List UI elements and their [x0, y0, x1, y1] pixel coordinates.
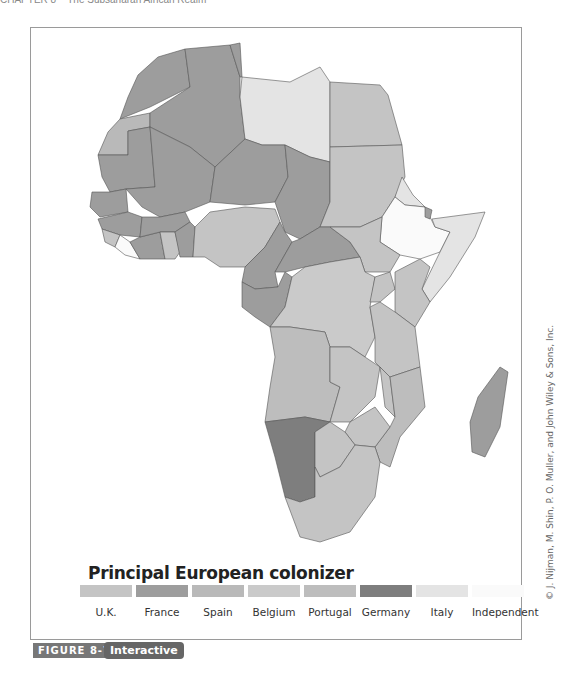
legend-swatch	[136, 585, 188, 597]
legend-label: Portugal	[304, 606, 356, 618]
legend: U.K. France Spain Belgium Portugal Germa…	[80, 585, 516, 615]
running-header: CHAPTER 8 The Subsaharan African Realm	[0, 0, 206, 5]
legend-swatch	[80, 585, 132, 597]
country-senegal	[90, 189, 128, 217]
legend-swatch	[360, 585, 412, 597]
country-egypt	[330, 82, 402, 147]
legend-item-germany: Germany	[360, 585, 412, 618]
legend-item-uk: U.K.	[80, 585, 132, 618]
legend-swatch	[416, 585, 468, 597]
legend-swatch	[248, 585, 300, 597]
legend-swatch	[192, 585, 244, 597]
legend-item-france: France	[136, 585, 188, 618]
legend-label: Belgium	[248, 606, 300, 618]
legend-item-spain: Spain	[192, 585, 244, 618]
country-madagascar	[470, 367, 508, 457]
legend-swatch	[304, 585, 356, 597]
legend-item-portugal: Portugal	[304, 585, 356, 618]
legend-item-belgium: Belgium	[248, 585, 300, 618]
legend-item-independent: Independent	[472, 585, 524, 618]
legend-label: France	[136, 606, 188, 618]
legend-label: Independent	[472, 606, 524, 618]
legend-label: U.K.	[80, 606, 132, 618]
copyright-credit: © J. Nijman, M. Shin, P. O. Muller, and …	[545, 325, 555, 600]
chapter-label: CHAPTER 8	[0, 0, 56, 5]
chapter-title: The Subsaharan African Realm	[67, 0, 206, 5]
legend-label: Germany	[360, 606, 412, 618]
legend-label: Spain	[192, 606, 244, 618]
legend-title: Principal European colonizer	[88, 563, 354, 583]
legend-swatch	[472, 585, 524, 597]
legend-item-italy: Italy	[416, 585, 468, 618]
interactive-badge[interactable]: Interactive	[104, 642, 184, 659]
legend-label: Italy	[416, 606, 468, 618]
africa-map	[30, 27, 522, 567]
country-djibouti	[425, 207, 432, 219]
